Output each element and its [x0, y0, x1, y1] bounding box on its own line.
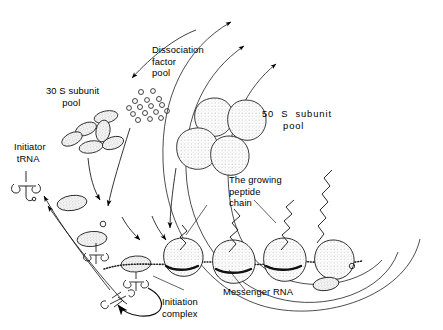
label-growing-peptide-chain: The growing peptide chain	[229, 174, 282, 209]
arrow-trna-recycle	[44, 196, 124, 302]
released-30s-subunit	[312, 276, 340, 292]
terminating-50s-subunit	[315, 240, 354, 279]
released-factor-small	[100, 221, 106, 227]
30s-subunit-pool	[59, 109, 125, 155]
label-messenger-rna: Messenger RNA	[223, 286, 293, 298]
released-trna-cloverleaf	[101, 290, 135, 309]
label-30s-subunit-pool: 30 S subunit pool	[46, 85, 99, 108]
arrow-30s-to-initiation	[88, 158, 140, 240]
label-50s-subunit-pool: 50 S subunit pool	[262, 108, 332, 131]
label-initiator-trna: Initiator tRNA	[14, 141, 46, 164]
initiating-30s-subunit	[56, 193, 107, 247]
50s-subunit-pool	[177, 98, 266, 175]
label-dissociation-factor-pool: Dissociation factor pool	[152, 44, 204, 79]
dissociation-factor-particles	[127, 89, 170, 123]
diagram-artwork	[0, 0, 443, 330]
initiator-trna-cloverleaf	[12, 171, 41, 201]
trna-in-mrna-complex	[124, 270, 149, 291]
label-initiation-complex: Initiation complex	[162, 296, 198, 319]
arrow-50s-to-mrna	[170, 168, 176, 228]
ribosome-cycle-diagram: Dissociation factor pool 30 S subunit po…	[0, 0, 443, 330]
